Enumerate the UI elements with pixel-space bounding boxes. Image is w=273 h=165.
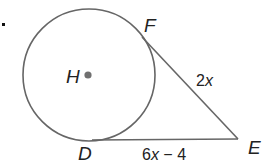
bullet-marker [2,23,5,26]
label-h: H [66,66,80,87]
measure-de: 6x − 4 [142,146,186,163]
label-e: E [248,137,261,158]
measure-de-coef: 6 [142,146,151,163]
segment-fe [142,37,238,139]
measure-fe-var: x [204,72,214,89]
segment-de [92,139,238,140]
measure-fe: 2x [196,72,214,89]
diagram-canvas: H F D E 2x 6x − 4 [0,0,273,165]
label-f: F [144,15,157,36]
label-d: D [78,143,92,164]
measure-fe-coef: 2 [196,72,205,89]
center-point-h [84,71,91,78]
measure-de-rest: − 4 [159,146,186,163]
geometry-figure: H F D E 2x 6x − 4 [0,0,273,165]
